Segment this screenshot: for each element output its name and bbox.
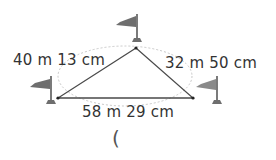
triangle-diagram	[0, 0, 276, 160]
flag-icon-right	[196, 76, 222, 104]
side-label-left: 40 m 13 cm	[13, 51, 105, 69]
vertex-top	[134, 46, 137, 49]
answer-blank: (	[112, 126, 120, 150]
side-label-right: 32 m 50 cm	[165, 54, 257, 72]
flag-icon-left	[30, 76, 56, 104]
side-label-bottom: 58 m 29 cm	[82, 103, 174, 121]
vertex-right	[191, 96, 194, 99]
vertex-left	[56, 96, 59, 99]
flag-icon-top	[116, 14, 142, 42]
